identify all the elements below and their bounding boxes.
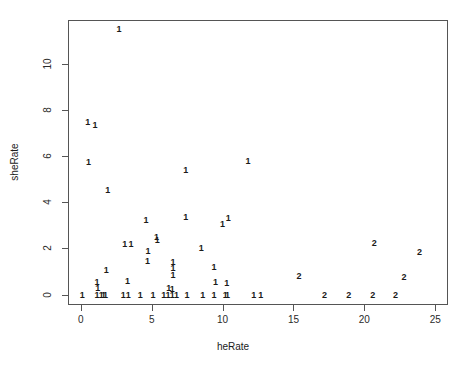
data-point-group-1: 1 [183,166,188,175]
data-point-group-2: 2 [417,247,422,256]
x-tick-mark [435,305,436,311]
data-point-group-1: 1 [122,239,127,248]
data-point-group-1: 1 [251,290,256,299]
data-point-group-1: 1 [212,290,217,299]
y-tick-label: 0 [43,292,53,298]
data-point-group-1: 1 [200,290,205,299]
data-points-layer: 1111111111111211112111111221111111111111… [68,20,448,305]
data-point-group-1: 1 [151,290,156,299]
data-point-group-1: 1 [174,290,179,299]
y-tick-label: 8 [43,107,53,113]
data-point-group-2: 2 [372,238,377,247]
data-point-group-2: 2 [322,290,327,299]
data-point-group-1: 1 [103,290,108,299]
y-tick-label: 4 [43,200,53,206]
x-tick-label: 5 [149,315,155,325]
x-tick-mark [81,305,82,311]
data-point-group-1: 1 [220,220,225,229]
data-point-group-2: 2 [393,290,398,299]
data-point-group-1: 1 [85,117,90,126]
data-point-group-1: 1 [117,25,122,34]
y-tick-mark [62,248,68,249]
data-point-group-1: 1 [146,246,151,255]
data-point-group-2: 2 [402,273,407,282]
y-axis-title: sheRate [9,143,20,180]
y-tick-label: 2 [43,246,53,252]
y-tick-mark [62,110,68,111]
data-point-group-1: 1 [258,290,263,299]
x-tick-mark [364,305,365,311]
x-tick-mark [223,305,224,311]
data-point-group-1: 1 [145,257,150,266]
scatter-plot-figure: 1111111111111211112111111221111111111111… [0,0,466,377]
data-point-group-1: 1 [125,276,130,285]
data-point-group-1: 1 [224,279,229,288]
x-axis-title: heRate [0,341,466,352]
data-point-group-1: 1 [225,290,230,299]
data-point-group-1: 1 [126,290,131,299]
x-tick-label: 15 [288,315,299,325]
data-point-group-1: 1 [185,290,190,299]
data-point-group-1: 1 [212,262,217,271]
x-tick-label: 25 [430,315,441,325]
x-tick-mark [293,305,294,311]
y-tick-mark [62,202,68,203]
data-point-group-1: 1 [246,156,251,165]
x-tick-mark [152,305,153,311]
data-point-group-1: 1 [105,185,110,194]
data-point-group-2: 2 [297,272,302,281]
x-tick-label: 10 [217,315,228,325]
y-tick-label: 10 [43,58,53,69]
data-point-group-1: 1 [199,244,204,253]
data-point-group-1: 1 [86,157,91,166]
data-point-group-1: 1 [155,236,160,245]
y-tick-mark [62,64,68,65]
data-point-group-1: 1 [104,266,109,275]
data-point-group-1: 1 [183,213,188,222]
y-tick-mark [62,295,68,296]
data-point-group-1: 1 [213,277,218,286]
data-point-group-1: 1 [138,290,143,299]
data-point-group-1: 1 [226,214,231,223]
y-tick-label: 6 [43,153,53,159]
data-point-group-1: 1 [80,290,85,299]
x-tick-label: 0 [78,315,84,325]
data-point-group-2: 2 [370,290,375,299]
data-point-group-1: 1 [170,271,175,280]
data-point-group-1: 1 [129,239,134,248]
x-tick-label: 20 [359,315,370,325]
y-tick-mark [62,156,68,157]
data-point-group-1: 1 [92,121,97,130]
data-point-group-1: 1 [143,215,148,224]
data-point-group-2: 2 [346,290,351,299]
